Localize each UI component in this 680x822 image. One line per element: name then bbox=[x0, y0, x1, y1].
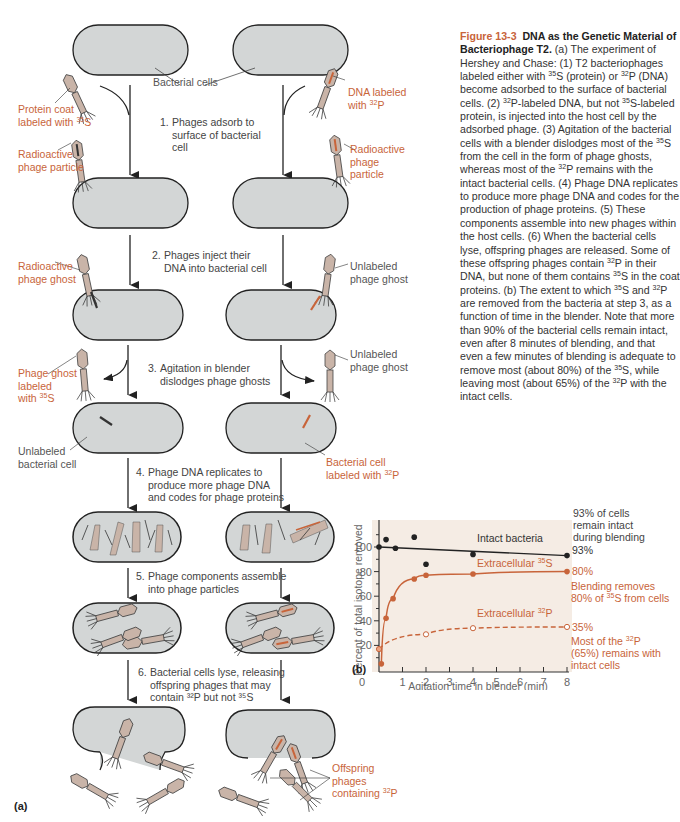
figure-number: Figure 13-3 bbox=[460, 30, 517, 42]
svg-text:8: 8 bbox=[564, 676, 570, 688]
dna-labeled-label: DNA labeled with 32P bbox=[348, 86, 406, 111]
bacterial-cell-left-3 bbox=[73, 290, 183, 340]
cell-with-phage-components-left bbox=[73, 512, 181, 562]
annotation-s35: Blending removes 80% of 35S from cells bbox=[571, 580, 669, 604]
end-label-intact: 93% bbox=[572, 544, 593, 556]
end-label-s35: 80% bbox=[572, 565, 593, 577]
svg-text:(65%) remains with: (65%) remains with bbox=[571, 647, 661, 659]
annotation-intact: 93% of cells remain intact during blendi… bbox=[573, 507, 645, 543]
lysed-cell-right bbox=[216, 710, 335, 817]
radioactive-phage-particle-left-label: Radioactive phage particle bbox=[18, 148, 84, 173]
step-6-text: 6.Bacterial cells lyse, releasing offspr… bbox=[138, 666, 285, 704]
step-5-text: 5.Phage components assemble into phage p… bbox=[136, 570, 286, 595]
step-2-text: 2.Phages inject their DNA into bacterial… bbox=[152, 249, 267, 274]
cell-with-assembled-phages-right bbox=[226, 599, 334, 657]
panel-b-label: (b) bbox=[352, 663, 366, 675]
bacterial-cell-left-1 bbox=[73, 25, 188, 75]
phage-ghost-labeled-label: Phage ghost labeled with 35S bbox=[18, 367, 77, 405]
step-4-text: 4.Phage DNA replicates to produce more p… bbox=[136, 466, 284, 504]
step-1-text: 1.Phages adsorb to surface of bacterial … bbox=[160, 116, 261, 154]
caption-body: (a) The experiment of Hershey and Chase:… bbox=[460, 43, 680, 402]
offspring-phages-label: Offspring phages containing 32P bbox=[332, 762, 398, 800]
svg-text:1: 1 bbox=[399, 676, 405, 688]
svg-text:80% of 35S from cells: 80% of 35S from cells bbox=[571, 592, 669, 604]
svg-text:Most of the 32P: Most of the 32P bbox=[571, 635, 641, 647]
end-label-p32: 35% bbox=[572, 621, 593, 633]
step-3-text: 3.Agitation in blender dislodges phage g… bbox=[148, 362, 270, 387]
labeled-bacterial-cell bbox=[226, 403, 336, 453]
isotope-removal-chart: 20406080100 012345678 Percent of total i… bbox=[350, 490, 680, 690]
svg-text:0: 0 bbox=[359, 676, 365, 688]
svg-text:during blending: during blending bbox=[573, 531, 645, 543]
bacterial-cell-right-1 bbox=[233, 25, 348, 75]
series-label-intact: Intact bacteria bbox=[477, 532, 543, 544]
radioactive-phage-ghost-label: Radioactive phage ghost bbox=[18, 260, 76, 285]
unlabeled-bacterial-cell bbox=[73, 403, 183, 453]
y-axis-label: Percent of total isotope removed bbox=[352, 524, 364, 675]
svg-text:Blending removes: Blending removes bbox=[571, 580, 655, 592]
svg-text:intact cells: intact cells bbox=[571, 659, 620, 671]
bacterial-cells-label: Bacterial cells bbox=[153, 76, 218, 89]
cell-with-phage-components-right bbox=[226, 512, 334, 562]
bacterial-cell-left-2 bbox=[73, 178, 188, 228]
svg-text:93% of cells: 93% of cells bbox=[573, 507, 630, 519]
unlabeled-phage-ghost-2-label: Unlabeled phage ghost bbox=[350, 348, 408, 373]
protein-coat-label: Protein coat labeled with 35S bbox=[18, 103, 91, 128]
unlabeled-bacterial-cell-label: Unlabeled bacterial cell bbox=[18, 445, 76, 470]
bacterial-cell-labeled-label: Bacterial cell labeled with 32P bbox=[326, 456, 399, 481]
panel-a-label: (a) bbox=[14, 800, 27, 812]
radioactive-phage-particle-right-label: Radioactive phage particle bbox=[350, 143, 405, 181]
unlabeled-phage-ghost-1-label: Unlabeled phage ghost bbox=[350, 260, 408, 285]
annotation-p32: Most of the 32P (65%) remains with intac… bbox=[571, 635, 661, 671]
x-axis-label: Agitation time in blender (min) bbox=[408, 680, 547, 690]
cell-with-assembled-phages-left bbox=[73, 599, 181, 657]
bacterial-cell-right-2 bbox=[233, 178, 348, 228]
figure-caption: Figure 13-3 DNA as the Genetic Material … bbox=[460, 30, 680, 404]
lysed-cell-left bbox=[66, 707, 195, 815]
svg-text:remain intact: remain intact bbox=[573, 519, 633, 531]
